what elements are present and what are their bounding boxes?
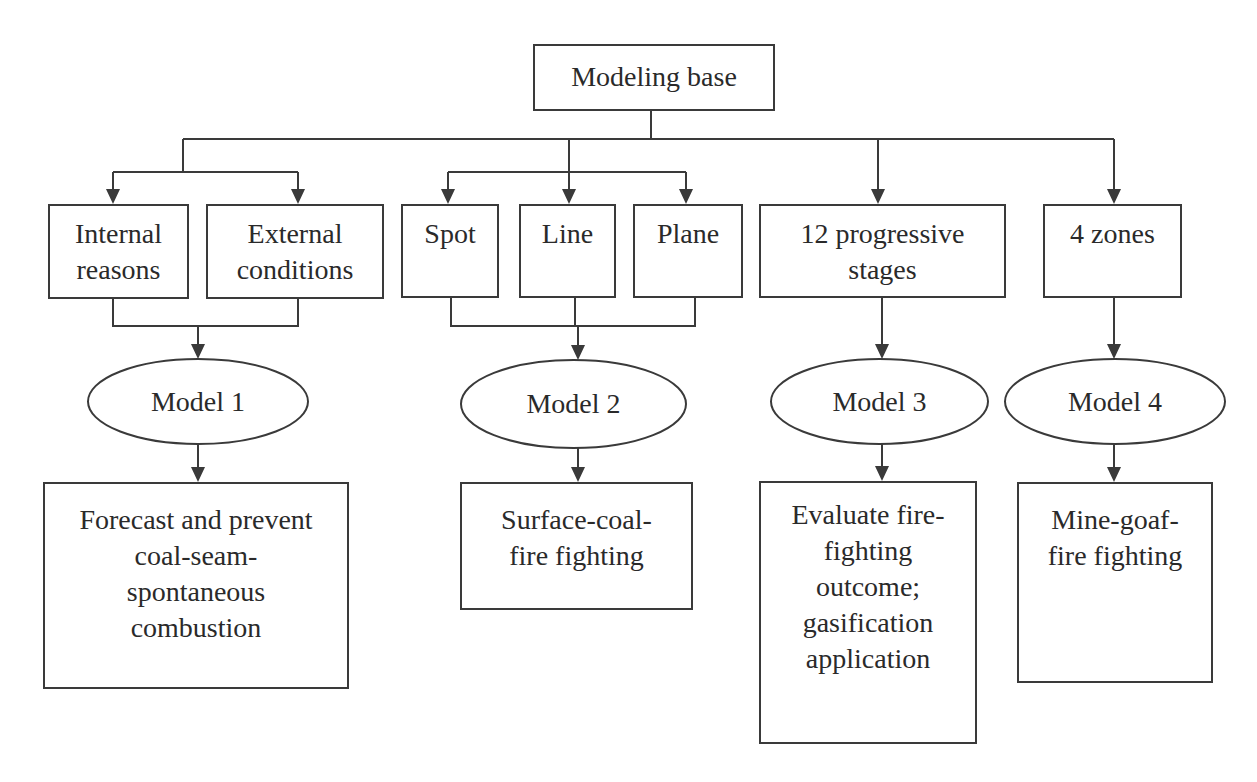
node-line: Line — [519, 204, 616, 298]
node-model-1: Model 1 — [88, 359, 308, 444]
node-internal-reasons: Internal reasons — [48, 204, 189, 299]
node-spot: Spot — [401, 204, 499, 298]
node-label: External conditions — [237, 216, 354, 288]
node-surface-coal-fire-fighting: Surface-coal- fire fighting — [460, 482, 693, 610]
node-4-zones: 4 zones — [1043, 204, 1182, 298]
node-model-3: Model 3 — [771, 359, 988, 444]
node-model-4: Model 4 — [1005, 359, 1225, 444]
arrowhead-icon — [1107, 467, 1121, 482]
diagram-canvas: Modeling base Internal reasons External … — [0, 0, 1257, 782]
node-label: Internal reasons — [75, 216, 162, 288]
node-label: 12 progressive stages — [800, 216, 964, 288]
connector-line — [451, 298, 695, 326]
node-label: Evaluate fire- fighting outcome; gasific… — [791, 497, 944, 677]
node-label: Spot — [424, 216, 475, 252]
arrowhead-icon — [191, 344, 205, 359]
node-label: Forecast and prevent coal-seam- spontane… — [79, 502, 312, 646]
arrowhead-icon — [106, 189, 120, 204]
node-external-conditions: External conditions — [206, 204, 384, 299]
arrowhead-icon — [571, 345, 585, 360]
node-forecast-prevent-combustion: Forecast and prevent coal-seam- spontane… — [43, 482, 349, 689]
arrowhead-icon — [191, 467, 205, 482]
node-mine-goaf-fire-fighting: Mine-goaf- fire fighting — [1017, 482, 1213, 683]
node-12-progressive-stages: 12 progressive stages — [759, 204, 1006, 298]
arrowhead-icon — [875, 466, 889, 481]
node-label: Model 3 — [832, 384, 926, 420]
connector-line — [113, 299, 298, 326]
node-evaluate-fire-fighting-outcome: Evaluate fire- fighting outcome; gasific… — [759, 481, 977, 744]
node-label: 4 zones — [1070, 216, 1155, 252]
arrowhead-icon — [875, 344, 889, 359]
arrowhead-icon — [291, 189, 305, 204]
node-label: Model 2 — [526, 386, 620, 422]
arrowhead-icon — [562, 189, 576, 204]
node-modeling-base: Modeling base — [533, 44, 775, 111]
arrowhead-icon — [871, 189, 885, 204]
arrowhead-icon — [571, 467, 585, 482]
arrowhead-icon — [441, 189, 455, 204]
arrowhead-icon — [1107, 189, 1121, 204]
arrowhead-icon — [679, 189, 693, 204]
node-label: Model 4 — [1068, 384, 1162, 420]
node-plane: Plane — [633, 204, 743, 298]
node-label: Line — [542, 216, 593, 252]
node-label: Model 1 — [151, 384, 245, 420]
node-label: Surface-coal- fire fighting — [501, 502, 652, 574]
node-label: Mine-goaf- fire fighting — [1048, 502, 1183, 574]
node-label: Plane — [657, 216, 719, 252]
node-label: Modeling base — [571, 59, 737, 95]
node-model-2: Model 2 — [461, 360, 686, 448]
arrowhead-icon — [1107, 344, 1121, 359]
